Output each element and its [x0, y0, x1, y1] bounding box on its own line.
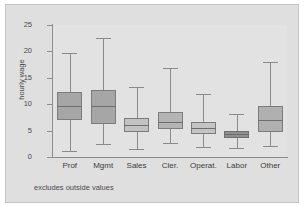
footnote: excludes outside values	[34, 183, 114, 192]
figure-canvas: hourly wage 0510152025 ProfMgmtSalesCler…	[5, 4, 299, 203]
lower-whisker-stem	[270, 132, 271, 146]
box-plot-other	[6, 5, 298, 202]
upper-whisker-cap	[263, 62, 278, 63]
upper-whisker-stem	[270, 62, 271, 105]
median-line	[258, 120, 283, 121]
lower-whisker-cap	[263, 146, 278, 147]
figure-root: hourly wage 0510152025 ProfMgmtSalesCler…	[0, 0, 304, 207]
